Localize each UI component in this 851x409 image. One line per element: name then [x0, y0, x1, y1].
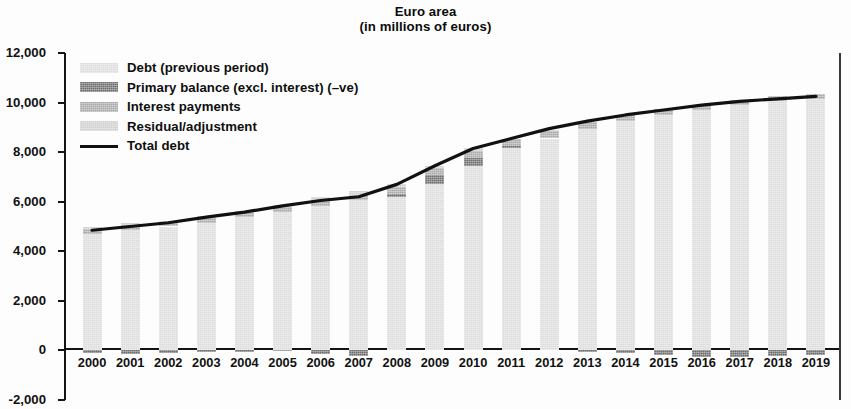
y-tick-label: 4,000 [0, 243, 46, 258]
bar-segment-debt-previous-period [768, 101, 787, 350]
legend-label-primary: Primary balance (excl. interest) (–ve) [127, 80, 358, 95]
bar-segment-interest-payments [387, 187, 406, 194]
plot-right-border [839, 53, 841, 400]
bar-segment-residual-adjustment [311, 197, 330, 200]
chart-title-line-2: (in millions of euros) [0, 19, 851, 34]
x-axis-zero-line [64, 348, 841, 350]
bar-segment-debt-previous-period [197, 223, 216, 351]
x-tick-label: 2011 [497, 355, 525, 370]
bar-segment-residual-adjustment [540, 130, 559, 131]
y-tick-mark [58, 151, 65, 153]
bar-segment-debt-previous-period [616, 121, 635, 350]
bar-stack [540, 53, 559, 400]
bar-segment-primary-balance-negative [273, 350, 292, 351]
x-tick-label: 2004 [230, 355, 258, 370]
legend-label-total-debt: Total debt [127, 138, 190, 153]
legend-item-interest-payments: Interest payments [80, 97, 410, 117]
bar-segment-debt-previous-period [311, 206, 330, 351]
bar-segment-debt-previous-period [349, 200, 368, 350]
x-tick-label: 2007 [345, 355, 373, 370]
y-tick-label: 8,000 [0, 144, 46, 159]
bar-segment-interest-payments [730, 100, 749, 105]
bar-segment-interest-payments [464, 151, 483, 158]
chart-legend: Debt (previous period) Primary balance (… [80, 58, 410, 156]
legend-line-icon-total-debt [80, 145, 118, 148]
bar-segment-debt-previous-period [692, 110, 711, 350]
bar-segment-residual-adjustment [197, 216, 216, 218]
legend-item-debt-previous-period: Debt (previous period) [80, 58, 410, 78]
x-tick-label: 2017 [726, 355, 754, 370]
bar-segment-interest-payments [273, 207, 292, 212]
bar-segment-debt-previous-period [83, 234, 102, 350]
y-tick-label: 12,000 [0, 45, 46, 60]
bar-segment-interest-payments [235, 212, 254, 217]
x-tick-label: 2012 [535, 355, 563, 370]
legend-swatch-icon-interest [80, 102, 118, 112]
bar-segment-debt-previous-period [540, 139, 559, 351]
y-tick-mark [58, 349, 65, 351]
bar-segment-interest-payments [502, 139, 521, 146]
chart-title: Euro area (in millions of euros) [0, 4, 851, 34]
bar-stack [654, 53, 673, 400]
bar-stack [425, 53, 444, 400]
bar-segment-primary-balance [425, 175, 444, 184]
bar-segment-primary-balance [502, 146, 521, 148]
x-tick-label: 2005 [268, 355, 296, 370]
bar-segment-primary-balance-negative [83, 350, 102, 353]
x-tick-label: 2006 [306, 355, 334, 370]
x-tick-label: 2018 [764, 355, 792, 370]
x-tick-label: 2009 [421, 355, 449, 370]
bar-stack [502, 53, 521, 400]
bar-segment-interest-payments [616, 115, 635, 121]
x-tick-label: 2003 [192, 355, 220, 370]
x-tick-label: 2013 [573, 355, 601, 370]
bar-segment-primary-balance-negative [616, 350, 635, 353]
x-tick-label: 2016 [687, 355, 715, 370]
y-tick-mark [58, 250, 65, 252]
bar-segment-interest-payments [159, 222, 178, 227]
bar-segment-residual-adjustment [159, 221, 178, 222]
y-tick-mark [58, 102, 65, 104]
x-tick-label: 2014 [611, 355, 639, 370]
bar-segment-primary-balance-negative [311, 350, 330, 353]
bar-segment-debt-previous-period [159, 227, 178, 351]
legend-label-residual: Residual/adjustment [127, 119, 257, 134]
y-tick-label: -2,000 [0, 392, 46, 407]
bar-segment-residual-adjustment [349, 191, 368, 194]
bar-segment-primary-balance-negative [159, 350, 178, 352]
bar-stack [578, 53, 597, 400]
bar-segment-interest-payments [540, 131, 559, 138]
legend-label-interest: Interest payments [127, 99, 241, 114]
bar-stack [806, 53, 825, 400]
bar-segment-primary-balance-negative [578, 350, 597, 351]
bar-segment-primary-balance [464, 158, 483, 166]
bar-segment-interest-payments [768, 96, 787, 101]
x-tick-label: 2015 [649, 355, 677, 370]
bar-segment-interest-payments [578, 122, 597, 129]
bar-segment-interest-payments [349, 195, 368, 201]
legend-label-debt: Debt (previous period) [127, 60, 269, 75]
bar-segment-debt-previous-period [806, 99, 825, 351]
bar-stack [464, 53, 483, 400]
bar-segment-residual-adjustment [425, 166, 444, 168]
chart-figure: Euro area (in millions of euros) 12,0001… [0, 0, 851, 409]
bar-segment-debt-previous-period [273, 212, 292, 350]
bar-stack [730, 53, 749, 400]
y-tick-label: 10,000 [0, 95, 46, 110]
legend-item-primary-balance: Primary balance (excl. interest) (–ve) [80, 78, 410, 98]
bar-segment-primary-balance [387, 194, 406, 197]
bar-segment-primary-balance-negative [121, 350, 140, 354]
x-tick-label: 2000 [78, 355, 106, 370]
chart-title-line-1: Euro area [0, 4, 851, 19]
legend-swatch-icon-primary [80, 82, 118, 92]
bar-segment-debt-previous-period [464, 166, 483, 351]
bar-segment-debt-previous-period [654, 115, 673, 350]
bar-segment-residual-adjustment [121, 223, 140, 225]
bar-segment-debt-previous-period [235, 217, 254, 350]
y-tick-mark [58, 52, 65, 54]
bar-segment-residual-adjustment [83, 227, 102, 229]
legend-item-total-debt: Total debt [80, 136, 410, 156]
bar-segment-interest-payments [692, 105, 711, 110]
y-tick-mark [58, 399, 65, 401]
bar-segment-debt-previous-period [730, 105, 749, 350]
